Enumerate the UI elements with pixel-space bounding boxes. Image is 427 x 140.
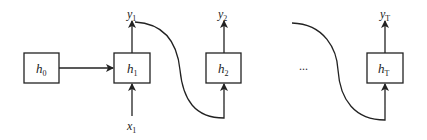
- label-yT: yT: [379, 7, 390, 23]
- label-y1: y1: [126, 7, 136, 23]
- node-h1: h1: [114, 53, 150, 83]
- node-hT-sub: T: [385, 69, 390, 78]
- label-x1: x1: [126, 119, 136, 135]
- node-h0-sub: 0: [43, 69, 47, 78]
- rnn-diagram: h0 h1 y1 x1 h2 y2 ... hT yT: [0, 0, 427, 140]
- node-hT: hT: [367, 53, 403, 83]
- node-h1-sub: 1: [134, 69, 138, 78]
- node-h2: h2: [206, 53, 241, 83]
- ellipsis: ...: [299, 59, 308, 73]
- node-h0: h0: [24, 53, 59, 83]
- label-y2: y2: [217, 7, 227, 23]
- node-h2-sub: 2: [225, 69, 229, 78]
